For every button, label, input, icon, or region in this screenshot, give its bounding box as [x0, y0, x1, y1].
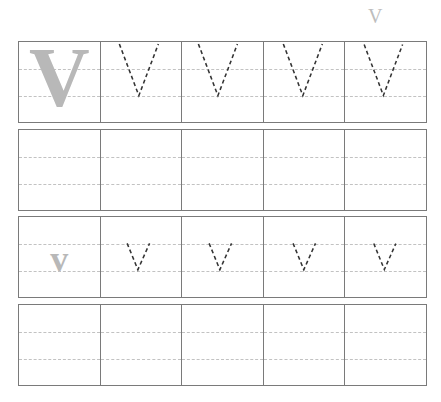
guide-line: [182, 184, 263, 185]
practice-cell[interactable]: [101, 305, 183, 385]
guide-line: [264, 332, 345, 333]
row-lowercase-trace: v: [18, 216, 427, 298]
trace-cell[interactable]: [182, 217, 264, 297]
trace-cell[interactable]: [264, 42, 346, 122]
practice-cell[interactable]: [19, 305, 101, 385]
guide-line: [101, 332, 182, 333]
trace-cell[interactable]: [345, 42, 426, 122]
practice-cell[interactable]: [19, 130, 101, 210]
model-letter: V: [19, 36, 100, 120]
guide-line: [19, 157, 100, 158]
row-uppercase-trace: V: [18, 41, 427, 123]
guide-line: [264, 157, 345, 158]
guide-line: [19, 332, 100, 333]
guide-line: [182, 332, 263, 333]
guide-line: [101, 359, 182, 360]
practice-cell[interactable]: [345, 305, 426, 385]
practice-cell[interactable]: [182, 130, 264, 210]
model-letter: v: [19, 241, 100, 277]
guide-line: [345, 157, 426, 158]
dotted-v-lowercase-icon: [345, 217, 426, 297]
practice-cell[interactable]: [345, 130, 426, 210]
model-cell: V: [19, 42, 101, 122]
trace-cell[interactable]: [101, 217, 183, 297]
guide-line: [345, 359, 426, 360]
corner-letter-label: V: [368, 6, 382, 26]
trace-cell[interactable]: [345, 217, 426, 297]
dotted-v-uppercase-icon: [182, 42, 263, 122]
row-blank-practice: [18, 129, 427, 211]
guide-line: [101, 184, 182, 185]
trace-cell[interactable]: [101, 42, 183, 122]
dotted-v-lowercase-icon: [101, 217, 182, 297]
model-cell: v: [19, 217, 101, 297]
guide-line: [19, 184, 100, 185]
guide-line: [182, 157, 263, 158]
dotted-v-uppercase-icon: [264, 42, 345, 122]
guide-line: [264, 359, 345, 360]
practice-cell[interactable]: [264, 130, 346, 210]
dotted-v-uppercase-icon: [345, 42, 426, 122]
dotted-v-lowercase-icon: [264, 217, 345, 297]
dotted-v-uppercase-icon: [101, 42, 182, 122]
guide-line: [19, 359, 100, 360]
practice-cell[interactable]: [264, 305, 346, 385]
guide-line: [182, 359, 263, 360]
practice-cell[interactable]: [101, 130, 183, 210]
trace-cell[interactable]: [182, 42, 264, 122]
guide-line: [264, 184, 345, 185]
practice-cell[interactable]: [182, 305, 264, 385]
guide-line: [101, 157, 182, 158]
row-blank-practice: [18, 304, 427, 386]
dotted-v-lowercase-icon: [182, 217, 263, 297]
trace-cell[interactable]: [264, 217, 346, 297]
guide-line: [345, 184, 426, 185]
guide-line: [345, 332, 426, 333]
